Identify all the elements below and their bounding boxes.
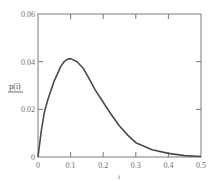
x-tick-label: 0.2 (98, 161, 108, 170)
series-line-p (38, 59, 201, 157)
x-tick-label: 0.5 (196, 161, 206, 170)
plot-area-border (38, 14, 201, 157)
x-tick-label: 0.3 (131, 161, 141, 170)
chart: 00.10.20.30.40.500.020.040.06 p(i) i (0, 0, 211, 182)
y-tick-label: 0.06 (21, 10, 35, 19)
x-tick-label: 0 (36, 161, 40, 170)
x-axis-label: i (118, 174, 120, 180)
y-tick-label: 0.02 (21, 105, 35, 114)
axis-tick-labels: 00.10.20.30.40.500.020.040.06 (21, 10, 206, 170)
axis-ticks (38, 14, 201, 157)
y-tick-label: 0.04 (21, 58, 35, 67)
y-tick-label: 0 (31, 153, 35, 162)
plot-frame (38, 14, 201, 157)
y-axis-label: p(i) (9, 82, 21, 91)
x-tick-label: 0.4 (163, 161, 173, 170)
x-tick-label: 0.1 (66, 161, 76, 170)
